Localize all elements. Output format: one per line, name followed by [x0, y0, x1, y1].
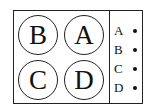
circle-top-left: B: [18, 15, 58, 55]
circle-bottom-right: D: [64, 60, 104, 100]
dot-icon: [133, 48, 137, 52]
circle-bottom-left: C: [18, 60, 58, 100]
circle-label: B: [29, 22, 47, 49]
legend-label: C: [114, 61, 126, 77]
legend-label: B: [114, 42, 126, 58]
circle-label: A: [74, 22, 94, 49]
circle-label: D: [74, 67, 94, 94]
circle-top-right: A: [64, 15, 104, 55]
dot-icon: [133, 86, 137, 90]
legend-label: A: [114, 23, 126, 39]
legend-item: C: [114, 62, 137, 76]
legend-item: B: [114, 43, 137, 57]
legend-divider: [109, 10, 110, 104]
circle-label: C: [29, 67, 47, 94]
legend-label: D: [114, 80, 126, 96]
dot-icon: [133, 29, 137, 33]
dot-icon: [133, 67, 137, 71]
legend-item: A: [114, 24, 137, 38]
legend-item: D: [114, 81, 137, 95]
